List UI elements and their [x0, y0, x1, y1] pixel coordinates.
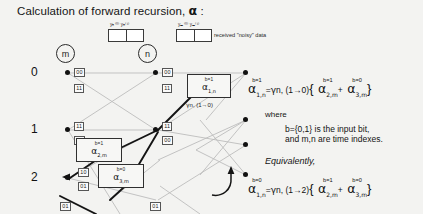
state-label-1: 1 [31, 122, 38, 136]
trellis-node-r0 [243, 70, 248, 75]
received-right-cell-0 [177, 30, 195, 41]
gamma-sub: n, (1→0) [190, 102, 213, 108]
trellis-node-m0 [65, 70, 70, 75]
received-left-box [108, 29, 144, 42]
eq1-term1-base: α2,m [318, 83, 338, 101]
title-alpha-symbol: α [189, 3, 198, 18]
eq1-lhs: b=1 α1,n [248, 78, 266, 100]
title-suffix: : [201, 5, 204, 17]
received-left-label: yₙ⁽⁰⁾ yₙ⁽¹⁾ [110, 22, 130, 27]
explanation-line-2: and m,n are time indexes. [285, 134, 383, 145]
trellis-node-r3 [243, 172, 248, 177]
alpha-box-3-m-symbol: α3,m [113, 173, 129, 184]
where-label: where [265, 110, 287, 119]
edge-label-n-11a: 11 [162, 84, 172, 93]
alpha-box-2-m: b=1 α2,m [76, 138, 122, 162]
slide-canvas: Calculation of forward recursion, α : yₙ… [0, 0, 423, 214]
eq2-close-brace: } [367, 181, 371, 196]
trellis-node-r2 [243, 142, 248, 147]
title-prefix: Calculation of forward recursion, [17, 5, 185, 17]
edge-label-m-00a: 00 [74, 68, 85, 77]
eq2-lhs: b=0 α1,n [248, 178, 266, 200]
state-label-2: 2 [31, 170, 38, 184]
alpha-box-3-m: b=0 α3,m [98, 164, 144, 188]
eq1-gamma-sub: n, (1→0) [276, 85, 309, 95]
marker-n-label: n [145, 49, 150, 59]
alpha-box-1-n: b=1 α1,n [187, 74, 231, 98]
edge-label-m-11b: 11 [74, 122, 84, 131]
eq2-term2: b=0 α3,m [347, 178, 367, 200]
trellis-node-r1 [243, 117, 248, 122]
edge-label-m-11a: 11 [74, 84, 84, 93]
equivalently-label: Equivalently, [265, 156, 315, 166]
received-right-box [176, 29, 212, 42]
alpha-box-2-m-symbol: α2,m [91, 147, 107, 158]
eq1-lhs-base: α1,n [248, 83, 266, 101]
received-caption: received "noisy" data [214, 32, 266, 38]
eq1-open-brace: { [309, 81, 313, 96]
eq1-term2: b=0 α3,m [347, 78, 367, 100]
marker-m: m [56, 44, 75, 63]
equation-forward-recursion-2: b=0 α1,n =γn, (1→2){ b=1 α2,m + b=0 α3,m… [248, 178, 371, 200]
edge-label-m-01b: 01 [60, 202, 71, 211]
eq2-term2-base: α3,m [347, 183, 367, 201]
edge-label-n-00b: 00 [162, 136, 173, 145]
explanation-line-1: b={0,1} is the input bit, [285, 124, 369, 135]
received-left-cell-0 [109, 30, 127, 41]
edge-label-m-01a: 01 [78, 182, 89, 191]
marker-m-label: m [62, 49, 70, 59]
received-left-cell-1 [127, 30, 144, 41]
received-right-cell-1 [195, 30, 212, 41]
eq1-close-brace: } [367, 81, 371, 96]
edge-label-n-11b: 11 [162, 122, 172, 131]
eq1-term2-base: α3,m [347, 83, 367, 101]
equation-forward-recursion-1: b=1 α1,n =γn, (1→0){ b=1 α2,m + b=0 α3,m… [248, 78, 371, 100]
edge-label-m-10: 10 [78, 168, 89, 177]
trellis-node-n0 [153, 70, 158, 75]
edge-label-n-01: 01 [150, 202, 161, 211]
state-label-0: 0 [31, 65, 38, 79]
eq1-plus: + [338, 85, 343, 95]
gamma-transition-label: γn, (1→0) [186, 101, 213, 108]
trellis-node-m1 [65, 127, 70, 132]
trellis-node-n1 [153, 127, 158, 132]
alpha-box-1-n-symbol: α1,n [202, 83, 216, 94]
eq2-lhs-base: α1,n [248, 183, 266, 201]
eq2-term1: b=1 α2,m [318, 178, 338, 200]
eq2-open-brace: { [309, 181, 313, 196]
edge-label-n-00a: 00 [162, 68, 173, 77]
eq2-term1-base: α2,m [318, 183, 338, 201]
eq2-gamma-sub: n, (1→2) [276, 185, 309, 195]
eq1-term1: b=1 α2,m [318, 78, 338, 100]
received-right-label: yₘ⁽⁰⁾ yₘ⁽¹⁾ [178, 22, 200, 27]
marker-n: n [138, 44, 157, 63]
page-title: Calculation of forward recursion, α : [17, 3, 204, 18]
eq2-plus: + [338, 185, 343, 195]
trellis-node-m2 [65, 175, 70, 180]
